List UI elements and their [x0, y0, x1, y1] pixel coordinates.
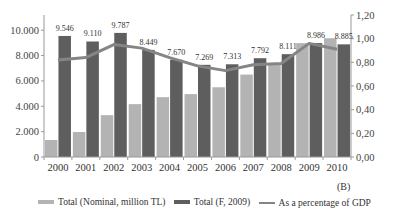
x-axis-tick-label: 2000 [47, 162, 68, 173]
x-axis-tick-label: 2003 [131, 162, 152, 173]
x-axis-tick-label: 2001 [75, 162, 96, 173]
bar-value-label: 7.792 [251, 46, 269, 55]
bar-nominal [157, 97, 170, 157]
bar-real-2009 [142, 50, 155, 157]
left-axis-tick-label: 0 [34, 152, 39, 163]
legend-label-nominal: Total (Nominal, million TL) [58, 197, 165, 207]
right-axis-tick-label: 1,20 [356, 10, 374, 21]
panel-label: (B) [337, 181, 350, 192]
bar-nominal [296, 43, 309, 157]
chart-canvas: 02.0004.0006.0008.00010.000 0,000,200,40… [0, 0, 409, 211]
bar-nominal [73, 132, 86, 157]
bar-value-label: 8.449 [139, 38, 157, 47]
left-axis-tick-label: 10.000 [10, 25, 39, 36]
x-axis-tick-label: 2002 [103, 162, 124, 173]
bar-value-label: 7.313 [223, 52, 241, 61]
bar-nominal [101, 115, 114, 157]
bar-nominal [212, 87, 225, 157]
bar-value-label: 7.269 [195, 53, 213, 62]
x-axis-tick-label: 2007 [243, 162, 264, 173]
right-axis-tick-label: 0,80 [356, 57, 374, 68]
legend-item-real: Total (F, 2009) [174, 197, 250, 207]
bar-real-2009 [86, 41, 99, 157]
legend-label-gdp: As a percentage of GDP [279, 198, 371, 208]
bar-value-label: 8.885 [335, 32, 353, 41]
left-axis-tick-label: 4.000 [15, 101, 39, 112]
right-axis-tick-label: 0,40 [356, 104, 374, 115]
bar-real-2009 [282, 54, 295, 157]
x-axis: 2000200120022003200420052006200720082009… [44, 157, 351, 173]
x-axis-tick-label: 2009 [299, 162, 320, 173]
bar-real-2009 [170, 60, 183, 157]
legend-item-nominal: Total (Nominal, million TL) [38, 197, 165, 207]
left-y-axis: 02.0004.0006.0008.00010.000 [10, 15, 44, 163]
bar-value-label: 8.111 [279, 42, 296, 51]
bar-real-2009 [310, 43, 323, 157]
legend-swatch-real [174, 200, 190, 204]
legend-swatch-nominal [38, 200, 54, 204]
bar-real-2009 [198, 65, 211, 157]
bar-value-label: 9.546 [56, 24, 74, 33]
bar-real-2009 [338, 44, 351, 157]
bar-series [45, 33, 350, 157]
x-axis-tick-label: 2005 [187, 162, 208, 173]
bar-real-2009 [58, 36, 71, 157]
right-axis-tick-label: 0,00 [356, 152, 374, 163]
bar-real-2009 [226, 64, 239, 157]
legend-item-gdp: As a percentage of GDP [259, 198, 371, 208]
bar-nominal [45, 140, 58, 157]
right-axis-tick-label: 0,60 [356, 81, 374, 92]
bar-nominal [240, 75, 253, 157]
left-axis-tick-label: 6.000 [15, 75, 39, 86]
legend: Total (Nominal, million TL) Total (F, 20… [0, 196, 409, 208]
x-axis-tick-label: 2008 [271, 162, 292, 173]
x-axis-tick-label: 2004 [159, 162, 181, 173]
bar-value-label: 9.787 [112, 21, 130, 30]
bar-real-2009 [254, 58, 267, 157]
bar-nominal [129, 104, 142, 157]
x-axis-tick-label: 2006 [215, 162, 236, 173]
legend-swatch-gdp [259, 202, 275, 204]
bar-real-2009 [114, 33, 127, 157]
bar-value-label: 9.110 [84, 29, 102, 38]
bar-nominal [185, 94, 198, 157]
bar-nominal [324, 38, 337, 157]
right-y-axis: 0,000,200,400,600,801,001,20 [351, 10, 374, 163]
legend-label-real: Total (F, 2009) [194, 197, 250, 207]
left-axis-tick-label: 2.000 [15, 126, 39, 137]
left-axis-tick-label: 8.000 [15, 50, 39, 61]
bar-value-label: 7.670 [167, 48, 185, 57]
x-axis-tick-label: 2010 [327, 162, 348, 173]
bar-nominal [268, 63, 281, 157]
right-axis-tick-label: 1,00 [356, 33, 374, 44]
bar-value-label: 8.986 [307, 31, 325, 40]
right-axis-tick-label: 0,20 [356, 128, 374, 139]
